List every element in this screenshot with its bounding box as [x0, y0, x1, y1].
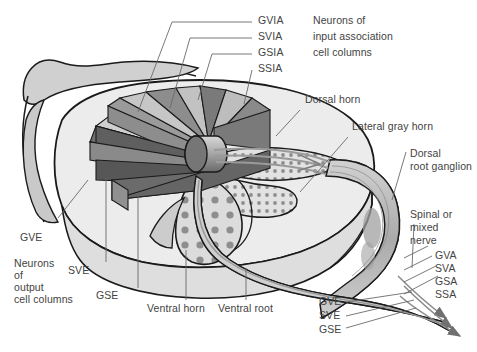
caption-output-line4: cell columns: [14, 294, 73, 306]
label-dorsal-root-ganglion-line1: Dorsal: [410, 148, 441, 160]
label-gva: GVA: [435, 250, 457, 262]
label-ssa: SSA: [435, 289, 456, 301]
caption-input-assoc-line1: Neurons of: [313, 15, 365, 27]
label-ssia: SSIA: [258, 63, 282, 75]
label-gse-efferent: GSE: [319, 324, 341, 336]
label-gve-efferent: GVE: [319, 296, 341, 308]
caption-output-line1: Neurons: [14, 258, 54, 270]
label-gse-output: GSE: [96, 290, 118, 302]
label-lateral-gray-horn: Lateral gray horn: [352, 121, 433, 133]
label-dorsal-root-ganglion-line2: root ganglion: [410, 161, 472, 173]
label-spinal-nerve-line1: Spinal or: [410, 209, 452, 221]
label-svia: SVIA: [258, 31, 282, 43]
label-gve-output: GVE: [20, 232, 42, 244]
label-sve-output: SVE: [68, 265, 89, 277]
caption-input-assoc-line3: cell columns: [313, 47, 372, 59]
figure-canvas: GVIA SVIA GSIA SSIA Neurons of input ass…: [0, 0, 477, 352]
caption-output-line2: of: [14, 270, 23, 282]
caption-input-assoc-line2: input association: [313, 31, 393, 43]
caption-output-line3: output: [14, 282, 44, 294]
label-ventral-horn: Ventral horn: [147, 303, 205, 315]
central-canal-cylinder: [185, 136, 227, 172]
label-spinal-nerve-line2: mixed: [410, 222, 439, 234]
label-gvia: GVIA: [258, 15, 284, 27]
label-gsa: GSA: [435, 276, 457, 288]
label-dorsal-horn: Dorsal horn: [305, 94, 360, 106]
label-sve-efferent: SVE: [319, 310, 340, 322]
label-gsia: GSIA: [258, 47, 284, 59]
label-spinal-nerve-line3: nerve: [410, 235, 437, 247]
label-sva: SVA: [435, 263, 456, 275]
label-ventral-root: Ventral root: [218, 303, 273, 315]
